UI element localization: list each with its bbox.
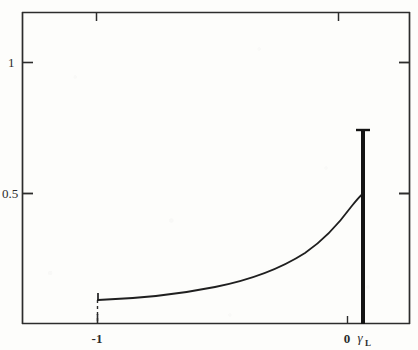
y-tick-label-0point5: 0.5 xyxy=(2,186,18,201)
x-tick-label-gamma-l-main: γ xyxy=(357,330,363,345)
curve-path xyxy=(98,194,363,300)
tick-labels: 1 0.5 -1 0 γ L xyxy=(2,55,371,348)
data-curve xyxy=(98,194,363,301)
axis-frame xyxy=(22,12,410,324)
x-tick-label-zero: 0 xyxy=(344,331,351,346)
point-mass-spike xyxy=(356,130,370,324)
figure-canvas: 1 0.5 -1 0 γ L xyxy=(0,0,418,350)
plot-area: 1 0.5 -1 0 γ L xyxy=(0,0,418,350)
axis-ticks xyxy=(23,13,409,323)
x-tick-label-gamma-l-subscript: L xyxy=(365,338,371,348)
y-tick-label-1: 1 xyxy=(8,55,15,70)
x-tick-label-minus1: -1 xyxy=(92,331,103,346)
